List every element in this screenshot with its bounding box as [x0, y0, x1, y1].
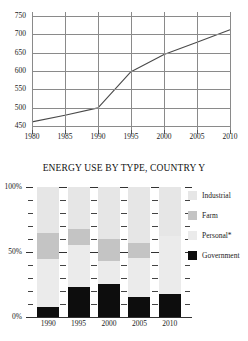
- bar-chart-y-tick: [152, 226, 158, 227]
- bar-chart-y-tick: [121, 200, 127, 201]
- bar-chart-y-tick: [151, 252, 159, 253]
- bar-chart-baseline: [33, 317, 185, 318]
- bar-chart-y-tick: [90, 252, 98, 253]
- bar-column[interactable]: [68, 187, 90, 317]
- bar-chart-y-tick: [28, 200, 33, 201]
- bar-chart-y-tick: [60, 304, 66, 305]
- bar-chart-y-tick: [152, 304, 158, 305]
- bar-segment-farm: [37, 233, 59, 259]
- bar-chart-y-tick: [152, 265, 158, 266]
- bar-segment-farm: [68, 229, 90, 246]
- bar-column[interactable]: [37, 187, 59, 317]
- line-chart-y-tick-label: 650: [15, 49, 26, 57]
- legend-swatch-icon: [188, 211, 197, 220]
- bar-chart-y-tick: [91, 291, 97, 292]
- bar-chart-y-tick: [59, 252, 67, 253]
- bar-chart-y-tick: [60, 226, 66, 227]
- bar-chart-y-tick: [28, 226, 33, 227]
- figure-page: 450500550600650700750 198019851990199520…: [0, 0, 248, 341]
- bar-chart-y-tick: [91, 200, 97, 201]
- stacked-bar-chart: ENERGY USE BY TYPE, COUNTRY Y 0%50%100% …: [0, 155, 248, 341]
- bar-segment-industrial: [37, 187, 59, 233]
- line-chart-y-axis-labels: 450500550600650700750: [0, 12, 28, 130]
- bar-segment-personal: [159, 236, 181, 293]
- line-chart-x-tick-label: 1985: [58, 133, 73, 141]
- bar-column[interactable]: [128, 187, 150, 317]
- bar-chart-legend: IndustrialFarmPersonal*Government: [188, 191, 248, 271]
- legend-swatch-icon: [188, 191, 197, 200]
- bar-chart-y-tick: [151, 187, 159, 188]
- bar-chart-y-tick: [28, 291, 33, 292]
- bar-chart-y-tick: [28, 265, 33, 266]
- bar-chart-x-tick-label: 1995: [71, 320, 86, 328]
- bar-chart-x-tick-label: 2010: [162, 320, 177, 328]
- bar-chart-y-tick: [91, 278, 97, 279]
- bar-segment-industrial: [68, 187, 90, 229]
- line-chart-x-tick-label: 2005: [190, 133, 205, 141]
- line-chart-x-tick-label: 1980: [25, 133, 40, 141]
- bar-chart-y-tick: [121, 239, 127, 240]
- legend-item[interactable]: Government: [188, 251, 248, 260]
- bar-segment-farm: [128, 243, 150, 259]
- line-chart-plot-area: [32, 12, 230, 130]
- bar-chart-y-tick: [152, 200, 158, 201]
- line-chart-gridline-vertical: [230, 12, 231, 130]
- bar-chart-y-tick: [59, 187, 67, 188]
- line-chart-y-tick-label: 750: [15, 12, 26, 20]
- line-chart-y-tick-label: 700: [15, 30, 26, 38]
- bar-chart-y-tick: [28, 239, 33, 240]
- bar-chart-y-tick: [28, 213, 33, 214]
- line-chart-gridline-vertical: [197, 12, 198, 130]
- bar-segment-industrial: [98, 187, 120, 239]
- line-chart-x-tick-label: 1995: [124, 133, 139, 141]
- bar-chart-x-tick-label: 1990: [41, 320, 56, 328]
- legend-item[interactable]: Farm: [188, 211, 248, 220]
- bar-chart-y-tick: [28, 278, 33, 279]
- bar-chart-y-tick: [91, 226, 97, 227]
- bar-chart-y-tick: [60, 278, 66, 279]
- bar-chart-y-tick: [152, 239, 158, 240]
- bar-chart-y-tick: [121, 278, 127, 279]
- legend-item-label: Farm: [202, 211, 218, 220]
- bar-chart-y-tick: [152, 291, 158, 292]
- line-chart-y-tick-label: 600: [15, 67, 26, 75]
- bar-chart-y-tick: [120, 252, 128, 253]
- bar-chart-y-tick-label: 0%: [12, 313, 22, 321]
- bar-chart-y-tick: [152, 213, 158, 214]
- bar-segment-personal: [37, 259, 59, 307]
- legend-item-label: Industrial: [202, 191, 231, 200]
- bar-column[interactable]: [159, 187, 181, 317]
- line-chart: 450500550600650700750 198019851990199520…: [0, 0, 248, 155]
- bar-column[interactable]: [98, 187, 120, 317]
- line-chart-gridline-vertical: [164, 12, 165, 130]
- bar-chart-y-tick: [121, 226, 127, 227]
- legend-item[interactable]: Industrial: [188, 191, 248, 200]
- line-chart-gridline-vertical: [98, 12, 99, 130]
- line-chart-gridline-vertical: [131, 12, 132, 130]
- bar-chart-y-tick: [26, 252, 33, 253]
- bar-chart-y-tick: [185, 317, 192, 318]
- legend-item-label: Government: [202, 251, 240, 260]
- bar-chart-title: ENERGY USE BY TYPE, COUNTRY Y: [0, 163, 248, 174]
- bar-chart-y-tick: [185, 278, 190, 279]
- bar-chart-y-tick: [91, 213, 97, 214]
- bar-chart-y-tick: [60, 200, 66, 201]
- bar-chart-y-tick: [91, 304, 97, 305]
- bar-segment-government: [37, 307, 59, 317]
- line-chart-x-tick-label: 1990: [91, 133, 106, 141]
- bar-chart-y-tick: [90, 187, 98, 188]
- line-chart-x-axis-labels: 1980198519901995200020052010: [32, 133, 230, 147]
- bar-chart-x-tick-label: 2005: [132, 320, 147, 328]
- bar-segment-government: [128, 297, 150, 317]
- bar-segment-government: [159, 294, 181, 317]
- legend-item[interactable]: Personal*: [188, 231, 248, 240]
- line-chart-y-tick-label: 550: [15, 85, 26, 93]
- bar-segment-personal: [98, 261, 120, 284]
- bar-chart-y-tick-label: 100%: [5, 183, 23, 191]
- bar-chart-y-tick: [60, 213, 66, 214]
- bar-chart-y-tick-label: 50%: [8, 248, 22, 256]
- bar-chart-y-tick: [185, 304, 190, 305]
- line-chart-x-tick-label: 2000: [157, 133, 172, 141]
- bar-segment-industrial: [128, 187, 150, 243]
- legend-item-label: Personal*: [202, 231, 232, 240]
